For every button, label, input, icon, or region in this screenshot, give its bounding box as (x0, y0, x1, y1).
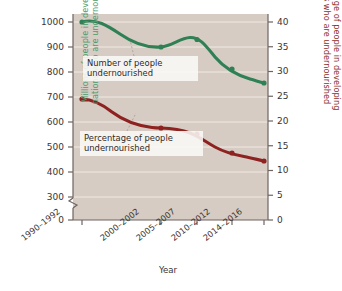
left-tick-label-900: 900 (38, 42, 64, 52)
annotation-percentage-undernourished: Percentage of people undernourished (80, 131, 203, 156)
right-tick-label-25: 25 (277, 91, 303, 101)
right-tick-label-5: 5 (277, 190, 303, 200)
right-axis-title: Percentage of people in developing natio… (321, 0, 340, 123)
left-tick-label-800: 800 (38, 67, 64, 77)
right-tick-label-15: 15 (277, 141, 303, 151)
right-tick-label-0: 0 (277, 215, 303, 225)
x-axis-title: Year (0, 265, 336, 275)
right-tick-label-10: 10 (277, 165, 303, 175)
annotation-number-undernourished: Number of people undernourished (83, 56, 198, 81)
right-tick-label-30: 30 (277, 66, 303, 76)
left-tick-label-500: 500 (38, 142, 64, 152)
left-tick-label-700: 700 (38, 92, 64, 102)
right-tick-label-20: 20 (277, 116, 303, 126)
left-tick-label-1000: 1000 (38, 17, 64, 27)
right-axis-ticks (268, 22, 273, 220)
right-tick-label-35: 35 (277, 42, 303, 52)
left-axis-ticks (68, 22, 73, 220)
right-tick-label-40: 40 (277, 17, 303, 27)
left-tick-label-300: 300 (38, 192, 64, 202)
x-axis-ticks (82, 220, 264, 225)
left-tick-label-400: 400 (38, 167, 64, 177)
left-tick-label-600: 600 (38, 117, 64, 127)
